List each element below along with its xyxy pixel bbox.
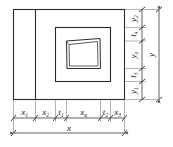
middle-rectangle [56, 28, 111, 82]
engineering-drawing-figure: x1 x2 t1 xa t2 x3 x [0, 0, 173, 147]
overall-dimension-label-x: x [66, 123, 71, 133]
dimension-label-t4: t4 [128, 31, 139, 37]
dimension-label-t3: t3 [128, 72, 139, 78]
dimension-label-x2: x2 [41, 107, 49, 118]
dimension-label-x3: x3 [113, 107, 121, 118]
dimension-label-t2: t2 [103, 107, 109, 118]
right-dimension-chain: y2 t4 ya t3 y1 y [125, 7, 163, 102]
dimension-label-y1: y1 [128, 87, 139, 95]
inner-quadrilateral-inner [69, 42, 98, 67]
section-geometry [14, 10, 125, 100]
drawing-canvas: x1 x2 t1 xa t2 x3 x [0, 0, 173, 147]
dimension-label-ya: ya [128, 51, 139, 59]
dimension-label-x1: x1 [20, 107, 28, 118]
dimension-label-xa: xa [79, 107, 87, 118]
dimension-label-t1: t1 [58, 107, 64, 118]
overall-dimension-label-y: y [146, 53, 156, 58]
dimension-label-y2: y2 [128, 15, 139, 23]
bottom-dimension-chain: x1 x2 t1 xa t2 x3 x [11, 100, 127, 137]
